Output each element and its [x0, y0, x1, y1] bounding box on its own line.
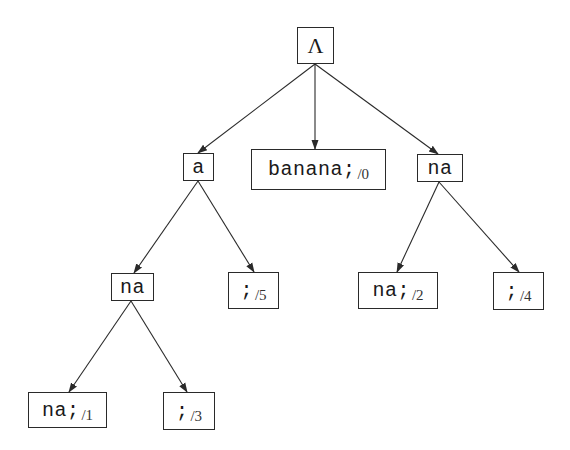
leaf-semicolon-5: ; /5 [228, 272, 279, 309]
root-node: Λ [297, 27, 334, 64]
edge-root-na [315, 64, 438, 154]
node-na-right-label: na [427, 157, 452, 180]
leaf-semicolon-3: ; /3 [163, 392, 215, 430]
edge-na-semi3 [131, 301, 187, 392]
edge-na-na1 [69, 301, 131, 392]
leaf-na-2-label: na; [372, 279, 410, 302]
leaf-na-2: na; /2 [358, 272, 438, 309]
leaf-banana-label: banana; [268, 158, 356, 181]
leaf-na-1-index: /1 [81, 407, 93, 424]
tree-edges [0, 0, 570, 450]
leaf-semicolon-4-index: /4 [520, 288, 532, 305]
edge-na-na2 [397, 182, 439, 272]
leaf-semicolon-4: ; /4 [493, 272, 544, 310]
edge-na-semi4 [439, 182, 519, 272]
leaf-na-1: na; /1 [28, 392, 107, 428]
leaf-semicolon-3-index: /3 [190, 408, 202, 425]
node-na-right: na [417, 154, 463, 182]
edge-root-a [198, 64, 315, 153]
suffix-tree-diagram: Λ a banana; /0 na na ; /5 na; /2 ; /4 na… [0, 0, 570, 450]
node-a: a [183, 153, 214, 181]
edge-a-na [134, 181, 198, 273]
leaf-semicolon-5-label: ; [240, 279, 253, 302]
leaf-banana-index: /0 [357, 166, 369, 183]
leaf-na-1-label: na; [42, 399, 80, 422]
node-na-left-label: na [120, 276, 145, 299]
leaf-semicolon-3-label: ; [176, 400, 189, 423]
root-label: Λ [308, 33, 324, 59]
node-na-left: na [111, 273, 154, 301]
leaf-semicolon-4-label: ; [505, 280, 518, 303]
leaf-na-2-index: /2 [412, 287, 424, 304]
edge-a-semi5 [198, 181, 254, 272]
node-a-label: a [192, 156, 205, 179]
leaf-banana: banana; /0 [251, 149, 386, 190]
leaf-semicolon-5-index: /5 [255, 287, 267, 304]
